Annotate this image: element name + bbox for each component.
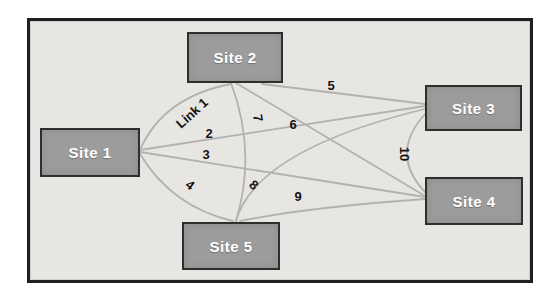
link-3-label: 3 — [202, 147, 209, 162]
site-2-box: Site 2 — [187, 32, 283, 83]
site-4-box: Site 4 — [425, 177, 523, 225]
link-5-label: 5 — [327, 78, 334, 93]
site-1-box: Site 1 — [40, 128, 140, 177]
site-3-label: Site 3 — [452, 100, 495, 117]
network-diagram: Site 1Site 2Site 3Site 4Site 5 Link 1234… — [0, 0, 559, 297]
link-2-label: 2 — [205, 126, 212, 141]
link-9-label: 9 — [294, 189, 301, 204]
site-5-box: Site 5 — [182, 222, 280, 270]
link-6-label: 6 — [289, 117, 296, 132]
site-2-label: Site 2 — [213, 49, 256, 66]
site-4-label: Site 4 — [452, 193, 495, 210]
site-1-label: Site 1 — [68, 144, 111, 161]
site-5-label: Site 5 — [209, 238, 252, 255]
site-3-box: Site 3 — [425, 85, 522, 131]
link-10-label: 10 — [397, 147, 412, 161]
